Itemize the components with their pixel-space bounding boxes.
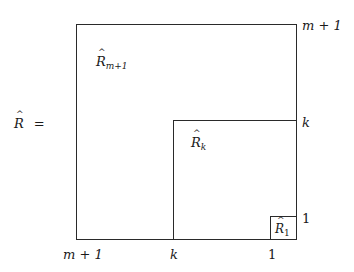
lhs-symbol: R	[14, 117, 24, 130]
right-label-k: k	[302, 116, 310, 129]
bottom-label-k: k	[170, 248, 178, 261]
block-outer-label: Rm+1	[96, 55, 128, 71]
bottom-label-1: 1	[268, 248, 276, 261]
block-middle-label: Rk	[191, 136, 206, 152]
bottom-label-m-plus-1: m + 1	[63, 248, 103, 261]
lhs-label: R=	[14, 117, 45, 130]
right-label-m-plus-1: m + 1	[302, 19, 342, 32]
right-label-1: 1	[302, 212, 310, 225]
block-inner-label: R1	[275, 223, 290, 238]
equals-sign: =	[34, 116, 45, 131]
